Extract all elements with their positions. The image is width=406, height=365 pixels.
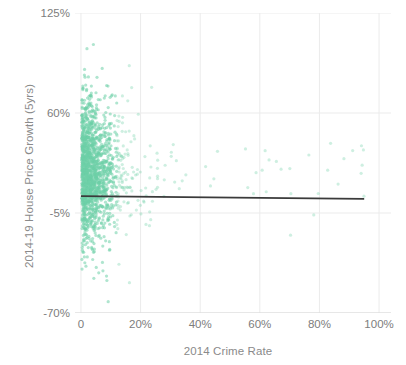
- scatter-point: [103, 170, 106, 173]
- scatter-point: [104, 188, 107, 191]
- scatter-point: [124, 170, 127, 173]
- scatter-point: [115, 101, 118, 104]
- scatter-point: [144, 186, 147, 189]
- scatter-point: [83, 146, 86, 149]
- x-tick-label: 0: [78, 318, 84, 330]
- scatter-point: [89, 220, 92, 223]
- scatter-point: [89, 174, 92, 177]
- scatter-point: [105, 176, 108, 179]
- scatter-point: [129, 140, 132, 143]
- scatter-point: [80, 258, 83, 261]
- scatter-point: [114, 94, 117, 97]
- scatter-point: [83, 68, 86, 71]
- scatter-point: [85, 166, 88, 169]
- scatter-point: [81, 88, 84, 91]
- scatter-point: [128, 214, 131, 217]
- scatter-point: [81, 175, 84, 178]
- scatter-point: [244, 147, 247, 150]
- scatter-point: [360, 172, 363, 175]
- scatter-point: [97, 126, 100, 129]
- scatter-point: [102, 151, 105, 154]
- scatter-point: [336, 182, 339, 185]
- scatter-point: [254, 171, 257, 174]
- scatter-point: [124, 178, 127, 181]
- scatter-point: [121, 94, 124, 97]
- scatter-point: [289, 192, 292, 195]
- scatter-point: [88, 207, 91, 210]
- scatter-point: [81, 84, 84, 87]
- scatter-point: [151, 190, 154, 193]
- scatter-point: [81, 186, 84, 189]
- scatter-point: [131, 177, 134, 180]
- scatter-point: [117, 180, 120, 183]
- scatter-point: [94, 177, 97, 180]
- scatter-point: [139, 212, 142, 215]
- scatter-point: [126, 148, 129, 151]
- scatter-point: [105, 279, 108, 282]
- scatter-point: [101, 205, 104, 208]
- scatter-point: [84, 185, 87, 188]
- scatter-point: [86, 103, 89, 106]
- scatter-point: [89, 215, 92, 218]
- scatter-point: [88, 98, 91, 101]
- scatter-point: [133, 137, 136, 140]
- scatter-point: [83, 76, 86, 79]
- scatter-point: [97, 181, 100, 184]
- scatter-point: [204, 165, 207, 168]
- scatter-point: [95, 174, 98, 177]
- scatter-point: [86, 147, 89, 150]
- scatter-point: [102, 235, 105, 238]
- scatter-chart-figure: 2014-19 House Price Growth (5yrs) 125%60…: [0, 0, 406, 365]
- scatter-point: [289, 234, 292, 237]
- scatter-point: [148, 224, 151, 227]
- scatter-point: [130, 189, 133, 192]
- scatter-point: [110, 180, 113, 183]
- scatter-point: [82, 222, 85, 225]
- scatter-point: [91, 258, 94, 261]
- scatter-point: [107, 215, 110, 218]
- scatter-point: [150, 86, 153, 89]
- scatter-point: [107, 106, 110, 109]
- scatter-point: [351, 149, 354, 152]
- scatter-point: [84, 125, 87, 128]
- scatter-point: [130, 86, 133, 89]
- scatter-point: [113, 184, 116, 187]
- scatter-point: [99, 174, 102, 177]
- scatter-point: [135, 209, 138, 212]
- scatter-point: [92, 211, 95, 214]
- scatter-point: [103, 135, 106, 138]
- scatter-point: [121, 121, 124, 124]
- scatter-point: [89, 123, 92, 126]
- scatter-point: [105, 160, 108, 163]
- scatter-point: [267, 158, 270, 161]
- scatter-point: [116, 204, 119, 207]
- scatter-point: [85, 197, 88, 200]
- scatter-point: [100, 181, 103, 184]
- scatter-point: [101, 261, 104, 264]
- scatter-point: [143, 155, 146, 158]
- scatter-point: [95, 266, 98, 269]
- scatter-point: [92, 242, 95, 245]
- scatter-point: [136, 168, 139, 171]
- scatter-point: [80, 218, 83, 221]
- scatter-point: [111, 206, 114, 209]
- scatter-point: [98, 210, 101, 213]
- scatter-point: [120, 174, 123, 177]
- scatter-point: [104, 201, 107, 204]
- scatter-point: [108, 136, 111, 139]
- scatter-point: [102, 113, 105, 116]
- scatter-point: [115, 200, 118, 203]
- scatter-point: [111, 158, 114, 161]
- scatter-point: [91, 159, 94, 162]
- scatter-point: [175, 159, 178, 162]
- scatter-point: [91, 108, 94, 111]
- scatter-point: [142, 200, 145, 203]
- scatter-point: [128, 281, 131, 284]
- scatter-point: [84, 138, 87, 141]
- scatter-point: [108, 212, 111, 215]
- scatter-point: [96, 121, 99, 124]
- scatter-point: [362, 195, 365, 198]
- scatter-point: [94, 112, 97, 115]
- scatter-point: [151, 200, 154, 203]
- scatter-point: [108, 240, 111, 243]
